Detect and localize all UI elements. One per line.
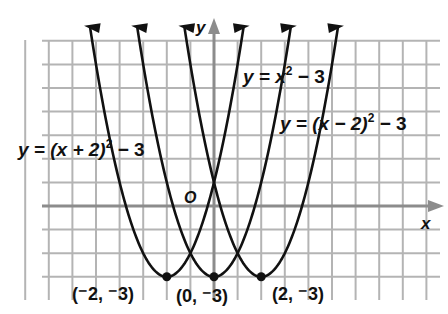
- x-axis-label: x: [420, 214, 432, 233]
- y-axis-arrow-icon: [208, 18, 220, 34]
- eq-mid-post: − 3: [292, 66, 324, 87]
- eq-left-post: − 3: [112, 139, 144, 160]
- equation-label-left: y = (x + 2)2 − 3: [17, 137, 145, 160]
- vertex-point: [210, 272, 219, 281]
- parabola-plot: y x O y = (x + 2)2 − 3 y = x2 − 3 y = (x…: [0, 0, 448, 314]
- curve-arrow-icon: [84, 23, 101, 33]
- curve-arrow-icon: [178, 23, 195, 33]
- vertex-label-right: (2, ⁻3): [272, 284, 324, 304]
- curve-arrow-icon: [327, 23, 344, 33]
- curve-arrow-icon: [233, 23, 250, 33]
- equation-label-right: y = (x − 2)2 − 3: [279, 111, 407, 134]
- eq-right-post: − 3: [374, 113, 406, 134]
- eq-right-main: y = (x − 2): [279, 113, 368, 134]
- equation-label-middle: y = x2 − 3: [242, 64, 325, 87]
- vertex-label-left: (⁻2, ⁻3): [72, 284, 134, 304]
- x-axis-arrow-icon: [428, 200, 444, 212]
- origin-label: O: [184, 189, 197, 206]
- vertex-point: [162, 272, 171, 281]
- eq-left-main: y = (x + 2): [17, 139, 106, 160]
- vertex-label-middle: (0, ⁻3): [176, 286, 228, 306]
- eq-mid-main: y = x: [242, 66, 287, 87]
- curve-arrow-icon: [131, 23, 148, 33]
- y-axis-label: y: [195, 18, 207, 37]
- curve-arrow-icon: [280, 23, 297, 33]
- vertex-point: [257, 272, 266, 281]
- labels: y x O y = (x + 2)2 − 3 y = x2 − 3 y = (x…: [17, 18, 432, 306]
- graph-figure: y x O y = (x + 2)2 − 3 y = x2 − 3 y = (x…: [0, 0, 448, 314]
